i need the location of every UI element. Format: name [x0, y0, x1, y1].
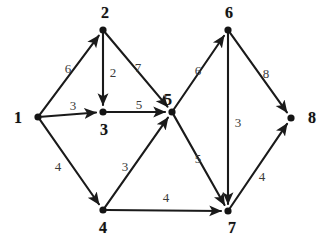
graph-edge: [40, 120, 99, 204]
edge-weight-label: 6: [65, 62, 72, 75]
graph-node: [224, 26, 231, 33]
edge-weight-label: 6: [195, 64, 202, 77]
edges-group: [40, 33, 287, 211]
node-label: 2: [101, 5, 109, 21]
graph-node: [224, 207, 231, 214]
node-label: 8: [308, 110, 316, 126]
edge-weight-label: 4: [259, 170, 266, 183]
node-label: 7: [228, 220, 236, 236]
edge-weight-label: 3: [70, 99, 77, 112]
graph-node: [99, 26, 106, 33]
graph-node: [287, 114, 294, 121]
graph-edge: [230, 124, 287, 208]
graph-node: [34, 113, 41, 120]
nodes-group: [34, 26, 294, 214]
edge-weight-label: 7: [135, 61, 142, 74]
weighted-directed-graph-figure: 12345678 6342753465384: [0, 0, 330, 246]
node-label: 6: [225, 5, 233, 21]
node-label: 1: [14, 110, 22, 126]
edge-weight-label: 5: [136, 98, 143, 111]
node-label: 4: [99, 220, 107, 236]
edge-weight-label: 5: [195, 152, 202, 165]
edge-weight-label: 3: [235, 116, 242, 129]
edge-weight-label: 8: [263, 67, 270, 80]
graph-edge: [230, 33, 287, 112]
edge-weight-label: 3: [122, 160, 129, 173]
graph-node: [99, 206, 106, 213]
node-label: 5: [164, 92, 172, 108]
node-label: 3: [100, 122, 108, 138]
graph-edge: [107, 210, 221, 211]
edge-weight-label: 2: [110, 66, 117, 79]
graph-canvas: [0, 0, 330, 246]
graph-node: [168, 108, 175, 115]
graph-edge: [42, 113, 96, 117]
edge-weight-label: 4: [163, 191, 170, 204]
edge-weight-label: 4: [55, 160, 62, 173]
graph-node: [99, 108, 106, 115]
graph-edge: [105, 118, 168, 207]
